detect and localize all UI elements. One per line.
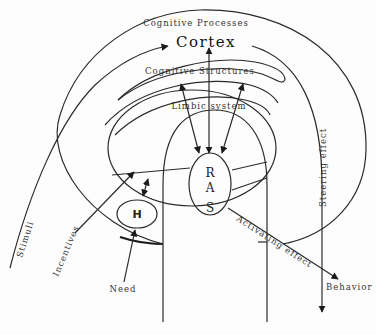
cortex-arc-right — [252, 46, 322, 185]
cognitive-structures-label: Cognitive Structures — [145, 66, 255, 76]
ras-letter-s: S — [206, 201, 214, 215]
limbic-arrow-left — [181, 84, 199, 153]
stem-connector-right — [232, 162, 267, 170]
diagram-canvas: R A S H Cognitive Processes Cortex Cogni… — [0, 0, 376, 335]
cortex-base-left — [120, 237, 163, 244]
brain-arousal-diagram: R A S H Cognitive Processes Cortex Cogni… — [0, 0, 376, 335]
behavior-label: Behavior — [326, 282, 373, 292]
h-label: H — [132, 208, 141, 221]
stem-connector-left — [112, 168, 190, 175]
cognitive-processes-label: Cognitive Processes — [143, 18, 249, 28]
ras-letter-r: R — [205, 166, 215, 180]
incentives-label: Incentives — [51, 224, 81, 278]
cortex-arc-left — [10, 46, 168, 268]
stem-connector-right2 — [232, 178, 267, 190]
limbic-system-label: Limbic system — [171, 101, 246, 111]
steering-effect-label: Steering effect — [318, 128, 328, 207]
h-limbic-double-arrow — [143, 179, 148, 196]
brainstem-outline — [163, 110, 267, 322]
cortex-label: Cortex — [176, 33, 236, 51]
need-label: Need — [110, 284, 137, 294]
ras-letter-a: A — [205, 181, 215, 195]
activating-effect-label: Activating effect — [234, 213, 314, 270]
